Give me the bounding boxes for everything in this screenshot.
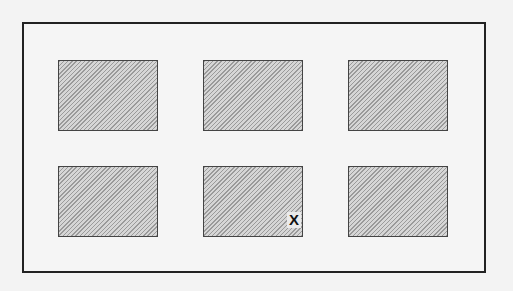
cell-r1-c1: [58, 60, 158, 131]
cell-r1-c2: [203, 60, 303, 131]
cell-r2-c2: X: [203, 166, 303, 237]
cell-r1-c3: [348, 60, 448, 131]
cell-r2-c3: [348, 166, 448, 237]
cell-r2-c1: [58, 166, 158, 237]
x-marker: X: [287, 212, 301, 228]
